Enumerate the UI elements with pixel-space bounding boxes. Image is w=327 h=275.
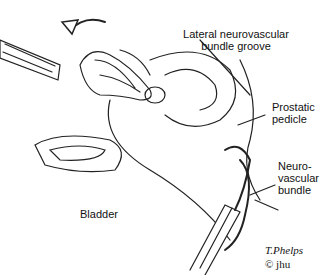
label-groove-line1: Lateral neurovascular <box>160 28 312 40</box>
label-nvb: Neuro- vascular bundle <box>278 160 319 196</box>
label-pedicle-line2: pedicle <box>272 113 315 125</box>
label-nvb-line2: vascular <box>278 172 319 184</box>
label-bladder: Bladder <box>80 208 118 220</box>
label-groove-line2: bundle groove <box>160 40 312 52</box>
illustration: Lateral neurovascular bundle groove Pros… <box>0 0 327 275</box>
label-nvb-line3: bundle <box>278 184 319 196</box>
copyright: © jhu <box>265 258 290 270</box>
label-groove: Lateral neurovascular bundle groove <box>160 28 312 52</box>
label-pedicle: Prostatic pedicle <box>272 101 315 125</box>
artist-signature: T.Phelps <box>265 244 303 256</box>
label-nvb-line1: Neuro- <box>278 160 319 172</box>
label-pedicle-line1: Prostatic <box>272 101 315 113</box>
